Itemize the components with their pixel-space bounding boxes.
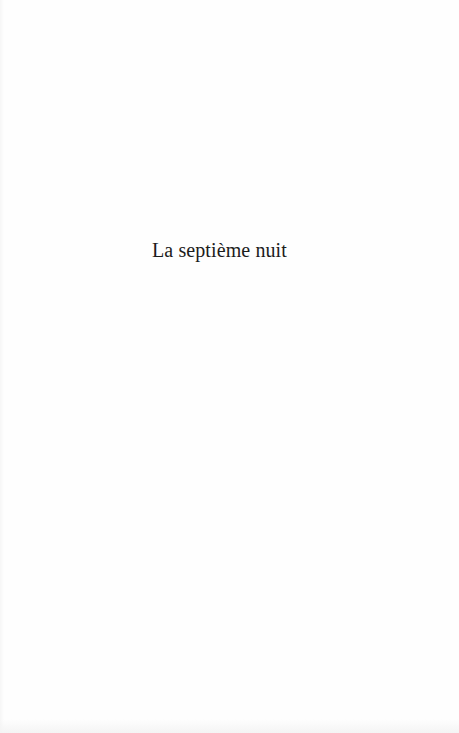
half-title: La septième nuit — [152, 237, 287, 263]
scan-edge-shadow-left — [0, 0, 4, 733]
book-page: La septième nuit — [0, 0, 459, 733]
scan-edge-shadow-bottom — [0, 719, 459, 733]
